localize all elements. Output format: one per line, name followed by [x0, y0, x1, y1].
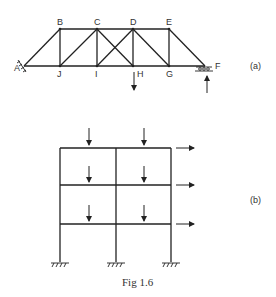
- figure-caption: Fig 1.6: [122, 276, 154, 288]
- truss-diagram: [24, 29, 205, 66]
- node-label-c: C: [94, 17, 101, 27]
- member-ef: [169, 29, 205, 66]
- frame-diagram: [60, 148, 171, 262]
- node-label-i: I: [95, 69, 98, 79]
- part-label-a: (a): [250, 61, 261, 71]
- node-label-d: D: [130, 17, 137, 27]
- part-label-b: (b): [250, 195, 261, 205]
- figure-canvas: A B C D E F G H I J (a) (b) Fi: [0, 0, 276, 297]
- node-label-j: J: [57, 69, 62, 79]
- member-dg: [133, 29, 169, 66]
- node-label-e: E: [166, 17, 172, 27]
- roller-support-icon: [195, 67, 213, 71]
- node-label-b: B: [57, 17, 63, 27]
- node-label-f: F: [215, 61, 221, 71]
- node-label-g: G: [166, 69, 173, 79]
- node-label-h: H: [137, 69, 144, 79]
- node-label-a: A: [14, 63, 20, 73]
- horizontal-load-arrows: [176, 148, 194, 224]
- member-ab: [24, 29, 60, 66]
- member-jc: [60, 29, 97, 66]
- fixed-support-icons: [51, 263, 180, 267]
